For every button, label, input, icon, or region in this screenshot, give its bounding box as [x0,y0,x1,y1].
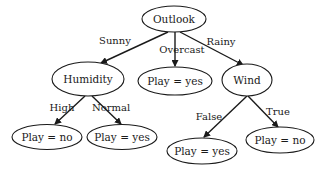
node-label-true-leaf: Play = no [254,134,305,146]
node-label-high-leaf: Play = no [21,131,72,143]
node-high-leaf: Play = no [12,125,82,150]
decision-tree-diagram: Sunny Overcast Rainy High Normal False T… [0,0,329,171]
node-true-leaf: Play = no [246,127,314,153]
edge-label-normal: Normal [92,102,130,113]
node-overcast-leaf: Play = yes [138,67,212,95]
node-humidity: Humidity [52,62,124,96]
node-label-false-leaf: Play = yes [174,145,230,157]
edge-label-rainy: Rainy [206,36,235,47]
edge-label-false: False [196,111,223,122]
node-wind: Wind [222,64,272,96]
node-label-wind: Wind [233,74,261,86]
node-label-outlook: Outlook [153,13,196,25]
node-false-leaf: Play = yes [167,138,237,164]
edge-label-overcast: Overcast [159,44,204,55]
edge-label-sunny: Sunny [99,35,131,46]
edge-label-high: High [50,102,75,113]
node-label-normal-leaf: Play = yes [94,131,150,143]
node-outlook: Outlook [142,6,206,32]
node-normal-leaf: Play = yes [87,125,157,150]
edge-label-true: True [266,106,290,117]
node-label-humidity: Humidity [63,73,113,85]
node-label-overcast-leaf: Play = yes [147,75,203,87]
